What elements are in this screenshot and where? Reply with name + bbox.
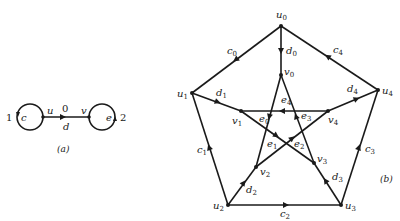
edge-c2-label: c2 <box>280 208 290 221</box>
arrow-icon <box>355 143 363 151</box>
edge-e1-label: e1 <box>267 138 277 151</box>
edge-e3-label: e3 <box>301 110 311 123</box>
arrow-icon <box>60 114 66 120</box>
vertex-u3 <box>339 203 343 207</box>
vertex-u4-label: u4 <box>382 85 393 98</box>
edge-c4-label: c4 <box>333 44 344 57</box>
arrow-icon <box>279 108 285 114</box>
vertex-v0 <box>279 73 283 77</box>
arrow-icon <box>278 48 284 54</box>
vertex-u1 <box>190 91 194 95</box>
vertex-v3-label: v3 <box>317 153 327 166</box>
vertex-u1-label: u1 <box>177 88 188 101</box>
edge-e-label: e <box>106 112 112 123</box>
figure-a: 1 c u 0 d v e 2 (a) <box>6 103 126 154</box>
vertex-v2-label: v2 <box>260 166 270 179</box>
vertex-v4-label: v4 <box>328 114 339 127</box>
edge-d-number: 0 <box>62 103 68 114</box>
vertex-v0-label: v0 <box>284 66 294 79</box>
edge-d3 <box>314 163 341 205</box>
edge-c-label: c <box>21 112 27 123</box>
vertex-u <box>41 115 45 119</box>
figure-b: u0 u1 u2 u3 u4 v0 v1 v2 v3 v4 c0 c1 c2 c… <box>177 9 393 221</box>
vertex-v <box>87 115 91 119</box>
edge-c1-label: c1 <box>197 144 207 157</box>
vertex-v4 <box>326 109 330 113</box>
loop-e-number: 2 <box>120 112 126 123</box>
edge-d1-label: d1 <box>216 87 227 100</box>
diagram-canvas: 1 c u 0 d v e 2 (a) <box>0 0 400 221</box>
vertex-u0 <box>279 24 283 28</box>
edge-d4-label: d4 <box>347 83 358 96</box>
vertex-v3 <box>312 161 316 165</box>
vertex-u2-label: u2 <box>213 200 224 213</box>
vertex-v1-label: v1 <box>232 115 242 128</box>
edge-e4-label: e4 <box>281 94 292 107</box>
caption-b: (b) <box>380 174 393 184</box>
vertex-v1 <box>239 109 243 113</box>
vertex-u0-label: u0 <box>276 9 287 22</box>
caption-a: (a) <box>57 144 70 154</box>
edge-c3-label: c3 <box>365 143 375 156</box>
edge-d2-label: d2 <box>246 184 257 197</box>
vertex-v-label: v <box>81 105 87 116</box>
vertex-u-label: u <box>47 105 53 116</box>
edge-d0-label: d0 <box>286 45 297 58</box>
vertex-u3-label: u3 <box>345 200 356 213</box>
arrow-icon <box>214 98 222 106</box>
vertex-u2 <box>226 203 230 207</box>
edge-c0-label: c0 <box>227 45 237 58</box>
edge-d-label: d <box>63 121 69 132</box>
arrow-icon <box>113 116 117 121</box>
vertex-u4 <box>376 88 380 92</box>
loop-c-number: 1 <box>6 112 12 123</box>
edge-d3-label: d3 <box>332 171 343 184</box>
vertex-v2 <box>254 165 258 169</box>
arrow-icon <box>353 95 361 103</box>
